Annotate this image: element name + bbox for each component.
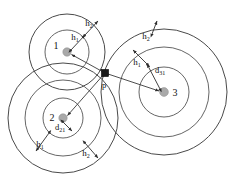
trilateration-diagram: 1 2 3 p — [0, 0, 234, 174]
diagram-canvas: 1 2 3 p — [0, 0, 234, 174]
node-3-dot — [160, 88, 169, 97]
node-1-dot — [63, 48, 71, 56]
node-2-dot — [59, 114, 67, 122]
point-p-marker — [102, 70, 109, 77]
node-1-label: 1 — [54, 40, 59, 51]
diagram-background — [0, 0, 234, 174]
node-3-label: 3 — [173, 87, 178, 98]
node-2-label: 2 — [50, 112, 55, 123]
point-p-label: p — [102, 80, 106, 90]
